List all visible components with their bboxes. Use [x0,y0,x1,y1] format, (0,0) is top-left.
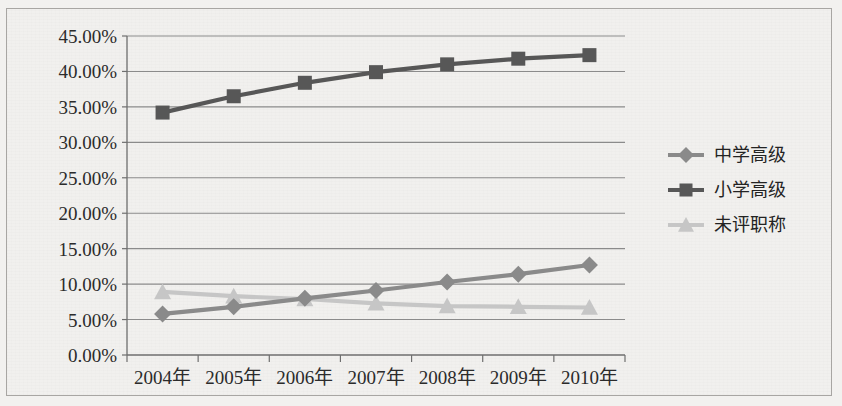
x-axis-tick-label: 2006年 [276,367,333,388]
y-axis-tick-label: 15.00% [58,239,117,260]
y-axis-tick-label: 5.00% [68,310,117,331]
legend-label: 小学高级 [714,179,786,200]
square-marker-icon [680,184,693,197]
data-point-marker [440,57,454,71]
legend-label: 中学高级 [714,144,786,165]
y-axis-tick-label: 10.00% [58,274,117,295]
series-2 [156,48,597,119]
x-axis-tick-label: 2007年 [348,367,405,388]
data-point-marker [510,266,527,283]
x-axis-tick-label: 2008年 [419,367,476,388]
x-axis-group [127,355,625,362]
data-series-group [154,48,598,322]
data-point-marker [156,106,170,120]
data-point-marker [298,76,312,90]
data-point-marker [369,65,383,79]
line-chart: 0.00%5.00%10.00%15.00%20.00%25.00%30.00%… [0,0,842,406]
y-axis-tick-label: 25.00% [58,168,117,189]
y-axis-tick-label: 45.00% [58,26,117,47]
data-point-marker [511,52,525,66]
x-axis-labels-group: 2004年2005年2006年2007年2008年2009年2010年 [134,367,618,388]
series-1 [154,256,598,322]
data-point-marker [581,256,598,273]
y-axis-tick-label: 20.00% [58,203,117,224]
y-axis-labels-group: 0.00%5.00%10.00%15.00%20.00%25.00%30.00%… [58,26,127,366]
y-axis-tick-label: 0.00% [68,345,117,366]
x-axis-tick-label: 2004年 [134,367,191,388]
x-axis-tick-label: 2005年 [205,367,262,388]
data-point-marker [227,89,241,103]
y-axis-tick-label: 35.00% [58,97,117,118]
legend: 中学高级小学高级未评职称 [668,144,786,235]
diamond-marker-icon [678,147,694,163]
data-point-marker [439,273,456,290]
x-axis-tick-label: 2009年 [490,367,547,388]
y-axis-tick-label: 40.00% [58,61,117,82]
series-line [163,55,590,113]
data-point-marker [582,48,596,62]
x-axis-tick-label: 2010年 [561,367,618,388]
y-axis-tick-label: 30.00% [58,132,117,153]
legend-label: 未评职称 [714,214,786,235]
